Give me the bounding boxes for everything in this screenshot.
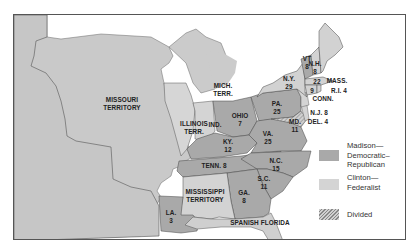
ky-label: KY.12 — [223, 138, 233, 154]
ri-label: R.I. 4 — [331, 87, 347, 95]
va-label: VA.25 — [263, 130, 273, 146]
pa-label: PA.25 — [272, 100, 282, 116]
del-label: DEL. 4 — [308, 118, 329, 126]
ga-label: GA.8 — [238, 189, 250, 205]
la-label: LA.3 — [166, 209, 177, 225]
ind-label: IND. — [208, 121, 221, 129]
mass-label: MASS. — [327, 77, 348, 85]
legend-label-divided: Divided — [347, 210, 372, 220]
legend-label-madison: Madison— Democratic– Republican — [347, 141, 390, 170]
mass-votes: 22 — [313, 78, 320, 86]
missouri-territory-label: MISSOURITERRITORY — [103, 96, 140, 112]
spanish-florida-label: SPANISH FLORIDA — [230, 219, 290, 227]
nh-label: N.H.8 — [308, 60, 321, 76]
md-label: MD.11 — [289, 118, 301, 134]
conn-label: CONN. — [312, 95, 333, 103]
rhode-island — [317, 85, 321, 93]
legend-label-clinton: Clinton— Federalist — [347, 173, 380, 192]
tenn-label: TENN. 8 — [201, 162, 226, 170]
conn-votes: 9 — [310, 87, 314, 95]
nc-label: N.C.15 — [269, 157, 282, 173]
clinton-swatch — [319, 179, 339, 190]
madison-swatch — [319, 150, 339, 161]
ny-label: N.Y.29 — [283, 75, 295, 91]
michigan-territory-label: MICH.TERR. — [213, 82, 233, 98]
massachusetts — [319, 23, 343, 73]
sc-label: S.C.11 — [258, 175, 271, 191]
divided-swatch — [319, 209, 339, 220]
mississippi-territory-label: MISSISSIPPITERRITORY — [185, 188, 224, 204]
nj-label: N.J. 8 — [310, 109, 328, 117]
ohio-label: OHIO7 — [232, 112, 249, 128]
illinois-territory-label: ILLINOISTERR. — [180, 120, 208, 136]
